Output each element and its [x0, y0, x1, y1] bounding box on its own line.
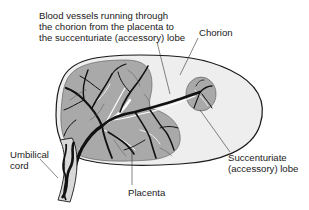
label-line: the chorion from the placenta to: [39, 21, 185, 32]
label-line: Chorion: [199, 27, 233, 38]
label-chorion: Chorion: [199, 27, 233, 38]
label-line: cord: [10, 160, 49, 171]
label-umbilical-cord: Umbilical cord: [10, 149, 49, 171]
label-line: Blood vessels running through: [39, 10, 185, 21]
placenta-diagram: Blood vessels running through the chorio…: [0, 0, 309, 210]
label-line: the succenturiate (accessory) lobe: [39, 32, 185, 43]
label-line: Succenturiate: [228, 152, 298, 163]
label-line: (accessory) lobe: [228, 163, 298, 174]
label-placenta: Placenta: [128, 187, 165, 198]
label-succenturiate-lobe: Succenturiate (accessory) lobe: [228, 152, 298, 174]
label-blood-vessels: Blood vessels running through the chorio…: [39, 10, 185, 43]
label-line: Placenta: [128, 187, 165, 198]
label-line: Umbilical: [10, 149, 49, 160]
umbilical-cord: [58, 138, 77, 202]
